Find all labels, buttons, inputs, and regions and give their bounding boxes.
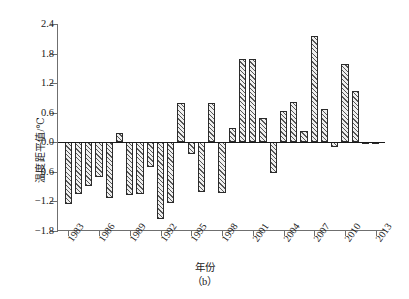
bar bbox=[239, 59, 246, 142]
y-tick-label: −1.8 bbox=[35, 226, 54, 237]
y-axis-title: 温度距平值/℃ bbox=[32, 116, 47, 182]
y-tick-label: 1.8 bbox=[41, 48, 54, 59]
bar bbox=[218, 142, 225, 192]
bar bbox=[300, 131, 307, 142]
bar bbox=[177, 103, 184, 142]
y-tick-label: 2.4 bbox=[41, 19, 54, 30]
bar bbox=[198, 142, 205, 191]
bar bbox=[95, 142, 102, 177]
bar bbox=[249, 59, 256, 142]
bar bbox=[290, 102, 297, 142]
bar bbox=[147, 142, 154, 167]
bar bbox=[65, 142, 72, 204]
zero-baseline bbox=[58, 142, 385, 143]
bar bbox=[167, 142, 174, 203]
bar bbox=[136, 142, 143, 194]
bar bbox=[157, 142, 164, 219]
temperature-anomaly-bar-chart: 2.41.81.20.60.0−0.6−1.2−1.8 198319861989… bbox=[0, 0, 409, 299]
bar bbox=[341, 64, 348, 142]
bar bbox=[208, 103, 215, 142]
bar bbox=[270, 142, 277, 173]
bar bbox=[321, 109, 328, 143]
y-tick-label: 1.2 bbox=[41, 78, 54, 89]
bar bbox=[85, 142, 92, 185]
bar bbox=[106, 142, 113, 198]
bar bbox=[188, 142, 195, 153]
bar bbox=[75, 142, 82, 194]
y-tick-label: −1.2 bbox=[35, 196, 54, 207]
x-axis-title: 年份 bbox=[0, 261, 409, 274]
bar bbox=[126, 142, 133, 195]
bar bbox=[311, 36, 318, 142]
bar bbox=[116, 133, 123, 142]
bar bbox=[259, 118, 266, 143]
bar bbox=[280, 111, 287, 142]
bar bbox=[229, 128, 236, 143]
bars-layer bbox=[58, 24, 385, 230]
plot-area: 2.41.81.20.60.0−0.6−1.2−1.8 198319861989… bbox=[57, 24, 385, 231]
bar bbox=[352, 91, 359, 142]
panel-caption: （b） bbox=[0, 276, 409, 289]
